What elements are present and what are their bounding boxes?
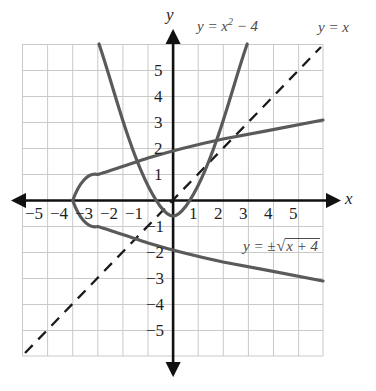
x-tick--1: −1 xyxy=(125,205,143,222)
parabola-label: y = x2 − 4 xyxy=(197,17,258,34)
y-tick--4: −4 xyxy=(146,296,164,313)
radicand: x + 4 xyxy=(285,238,320,254)
parabola-label-rhs: − 4 xyxy=(237,18,258,34)
parabola-label-lhs: y = x xyxy=(197,18,228,34)
sqrt-label-lhs: y = ± xyxy=(243,238,276,254)
x-tick-1: 1 xyxy=(189,205,198,222)
y-axis-label: y xyxy=(166,6,174,23)
x-tick-4: 4 xyxy=(264,205,273,222)
x-tick--3: −3 xyxy=(75,205,93,222)
parabola-label-exponent: 2 xyxy=(228,16,233,27)
x-axis-label: x xyxy=(345,190,353,207)
math-graph-figure: y x −5 −4 −3 −2 −1 1 2 3 4 5 5 4 3 2 1 −… xyxy=(0,0,376,391)
y-tick-3: 3 xyxy=(154,114,163,131)
y-tick--3: −3 xyxy=(146,270,164,287)
x-tick--5: −5 xyxy=(25,205,43,222)
radical-sign: √ xyxy=(277,237,286,254)
identity-line-label: y = x xyxy=(318,20,349,35)
y-tick-5: 5 xyxy=(154,62,163,79)
coordinate-plane-svg xyxy=(0,0,376,391)
radical-group: √x + 4 xyxy=(276,238,321,254)
x-tick-2: 2 xyxy=(214,205,223,222)
x-tick--4: −4 xyxy=(50,205,68,222)
y-tick--5: −5 xyxy=(146,322,164,339)
y-tick-2: 2 xyxy=(154,140,163,157)
y-tick--2: −2 xyxy=(146,244,164,261)
sqrt-label: y = ±√x + 4 xyxy=(243,238,320,254)
y-tick-4: 4 xyxy=(154,88,163,105)
y-tick-1: 1 xyxy=(154,166,163,183)
x-tick--2: −2 xyxy=(100,205,118,222)
x-tick-3: 3 xyxy=(239,205,248,222)
y-tick--1: −1 xyxy=(146,218,164,235)
x-tick-5: 5 xyxy=(289,205,298,222)
